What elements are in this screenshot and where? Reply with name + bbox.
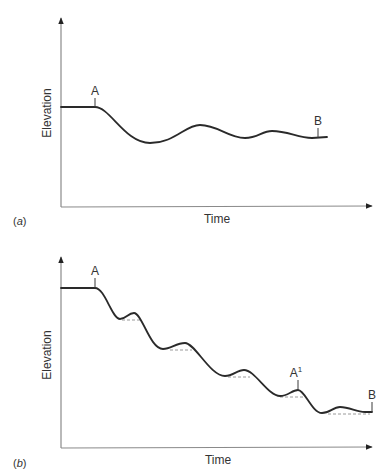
point-label-a: A [91,84,99,98]
x-axis-a [61,206,372,207]
panel-letter-a: a [17,215,23,227]
point-label-b-b: B [368,388,376,402]
x-axis-label-a: Time [204,212,231,226]
point-label-a1: A1 [290,365,303,380]
panel-b: A A1 B Elevation Time (b) [13,257,376,469]
point-label-a-b: A [91,264,99,278]
point-label-a1-superscript: 1 [298,365,303,374]
x-axis-b [61,447,372,448]
diagram-canvas: A B Elevation Time (a) A A1 B Elevation … [0,0,387,474]
point-label-a1-letter: A [290,366,298,380]
equilibrium-levels [122,320,370,414]
elevation-curve-a [61,107,327,143]
panel-a: A B Elevation Time (a) [13,18,372,227]
point-label-b: B [314,114,322,128]
y-axis-label-a: Elevation [40,88,54,137]
panel-letter-b: b [17,457,23,469]
x-axis-label-b: Time [205,453,232,467]
y-axis-label-b: Elevation [40,330,54,379]
elevation-curve-b [61,288,372,413]
panel-label-a: (a) [13,215,26,227]
panel-label-b: (b) [13,457,26,469]
